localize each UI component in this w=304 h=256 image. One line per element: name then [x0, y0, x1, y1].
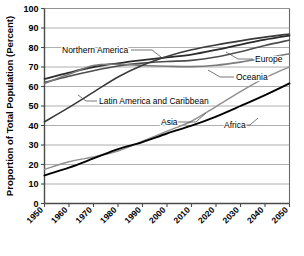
y-tick-label: 20	[28, 160, 38, 170]
series-label-latin-america-and-caribbean: Latin America and Caribbean	[99, 96, 209, 106]
y-tick-label: 80	[28, 43, 38, 53]
x-tick-label: 2020	[196, 205, 217, 226]
x-tick-label: 2010	[171, 205, 192, 226]
x-tick-label: 2040	[245, 205, 266, 226]
y-tick-label: 90	[28, 23, 38, 33]
x-tick-label: 2050	[269, 205, 290, 226]
line-chart: 0102030405060708090100 19501960197019801…	[0, 0, 304, 256]
y-tick-label: 10	[28, 179, 38, 189]
series-label-europe: Europe	[255, 54, 283, 64]
y-tick-label: 70	[28, 62, 38, 72]
series-label-asia: Asia	[161, 117, 178, 127]
y-tick-label: 60	[28, 82, 38, 92]
y-axis-ticks: 0102030405060708090100	[23, 4, 44, 209]
y-tick-label: 50	[28, 101, 38, 111]
leader-line	[208, 70, 234, 77]
x-tick-label: 1960	[49, 205, 70, 226]
x-tick-label: 1970	[73, 205, 94, 226]
x-tick-label: 1950	[24, 205, 45, 226]
series-label-africa: Africa	[224, 120, 246, 130]
x-tick-label: 2030	[220, 205, 241, 226]
y-axis-title: Proportion of Total Population (Percent)	[4, 16, 15, 196]
y-tick-label: 100	[23, 4, 38, 14]
x-tick-label: 1990	[122, 205, 143, 226]
x-axis-ticks: 1950196019701980199020002010202020302040…	[24, 204, 290, 226]
series-label-oceania: Oceania	[236, 72, 268, 82]
chart-container: 0102030405060708090100 19501960197019801…	[0, 0, 304, 256]
x-tick-label: 2000	[147, 205, 168, 226]
leader-line	[226, 52, 253, 59]
leader-line	[131, 50, 161, 57]
y-axis-title-text: Proportion of Total Population (Percent)	[4, 16, 15, 196]
y-tick-label: 30	[28, 140, 38, 150]
series-label-northern-america: Northern America	[62, 45, 128, 55]
x-tick-label: 1980	[98, 205, 119, 226]
y-tick-label: 40	[28, 121, 38, 131]
